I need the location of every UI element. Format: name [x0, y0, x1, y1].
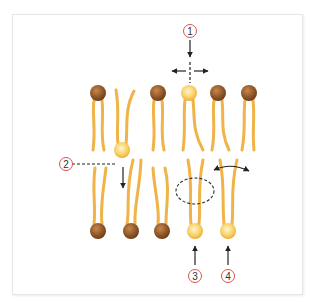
tail-flexion-annotation — [176, 178, 214, 265]
label-1: 1 — [184, 25, 197, 38]
flipping-lipid-head — [114, 142, 130, 158]
phospholipid-head-yellow — [187, 223, 203, 239]
phospholipid-head-brown — [90, 85, 106, 101]
flip-flop-annotation — [72, 164, 123, 188]
phospholipid-head-brown — [210, 85, 226, 101]
phospholipid-head-brown — [123, 223, 139, 239]
label-2: 2 — [60, 158, 73, 171]
label-3: 3 — [189, 270, 202, 283]
phospholipid-head-yellow — [181, 85, 197, 101]
phospholipid-head-brown — [150, 85, 166, 101]
label-2-text: 2 — [63, 159, 69, 170]
label-4-text: 4 — [225, 271, 231, 282]
phospholipid-head-yellow — [220, 223, 236, 239]
top-leaflet-tails — [93, 90, 254, 150]
label-3-text: 3 — [192, 271, 198, 282]
phospholipid-head-brown — [90, 223, 106, 239]
phospholipid-head-brown — [241, 85, 257, 101]
label-4: 4 — [222, 270, 235, 283]
bottom-leaflet-heads — [90, 223, 236, 239]
phospholipid-head-brown — [154, 223, 170, 239]
label-1-text: 1 — [187, 26, 193, 37]
lipid-bilayer-diagram: 1 2 3 4 — [0, 0, 314, 303]
lateral-diffusion-annotation — [172, 40, 208, 83]
